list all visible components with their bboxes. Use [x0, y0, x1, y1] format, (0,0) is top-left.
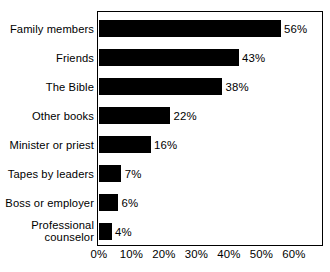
- bar: [99, 136, 151, 153]
- value-label: 6%: [122, 197, 139, 209]
- bar: [99, 165, 122, 182]
- chart-row: Friends 43%: [0, 49, 330, 66]
- x-tick-label: 50%: [250, 248, 273, 260]
- value-label: 7%: [125, 168, 142, 180]
- x-axis: 0% 10% 20% 30% 40% 50% 60%: [0, 248, 330, 266]
- value-label: 16%: [154, 139, 177, 151]
- chart-row: Family members 56%: [0, 20, 330, 37]
- category-label: Other books: [32, 109, 94, 122]
- category-label: Tapes by leaders: [8, 167, 94, 180]
- bar-chart: Family members 56% Friends 43% The Bible…: [0, 0, 330, 272]
- value-label: 38%: [226, 81, 249, 93]
- value-label: 43%: [242, 52, 265, 64]
- x-tick-label: 40%: [217, 248, 240, 260]
- category-label: Friends: [56, 51, 94, 64]
- bar: [99, 107, 171, 124]
- chart-row: Tapes by leaders 7%: [0, 165, 330, 182]
- chart-row: The Bible 38%: [0, 78, 330, 95]
- chart-row: Minister or priest 16%: [0, 136, 330, 153]
- bar: [99, 223, 112, 240]
- value-label: 22%: [174, 110, 197, 122]
- x-tick-label: 0%: [91, 248, 108, 260]
- category-label: Boss or employer: [5, 196, 94, 209]
- bar: [99, 194, 119, 211]
- category-label: The Bible: [46, 80, 94, 93]
- x-tick-label: 30%: [185, 248, 208, 260]
- category-label: Minister or priest: [10, 138, 94, 151]
- bar: [99, 78, 223, 95]
- bar: [99, 49, 239, 66]
- chart-row: Other books 22%: [0, 107, 330, 124]
- x-tick-label: 20%: [152, 248, 175, 260]
- x-tick-label: 60%: [282, 248, 305, 260]
- value-label: 4%: [115, 226, 132, 238]
- chart-row: Professional counselor 4%: [0, 223, 330, 240]
- category-label: Family members: [10, 22, 94, 35]
- value-label: 56%: [284, 23, 307, 35]
- chart-row: Boss or employer 6%: [0, 194, 330, 211]
- bar: [99, 20, 281, 37]
- x-tick-label: 10%: [120, 248, 143, 260]
- category-label: Professional counselor: [31, 219, 94, 244]
